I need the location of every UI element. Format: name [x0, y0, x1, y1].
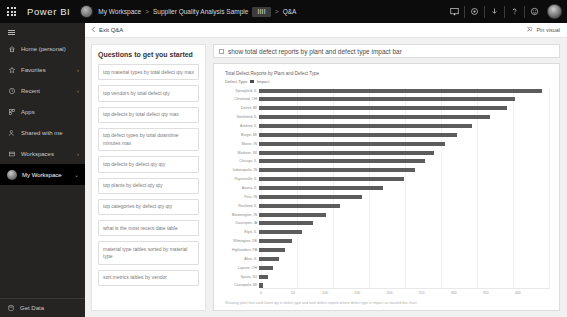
bar-value[interactable] [259, 230, 302, 234]
x-axis-tick: 250 [422, 291, 454, 298]
bar-row[interactable]: Moore, IN [225, 141, 550, 146]
bar-row[interactable]: Burgin, MI [225, 132, 550, 137]
chart-card: Total Defect Reports by Plant and Defect… [213, 63, 560, 311]
bar-value[interactable] [259, 106, 507, 110]
breadcrumb-workspace[interactable]: My Workspace [98, 8, 141, 15]
top-bar-actions [445, 0, 567, 23]
bar-row[interactable]: Wilmington, DE [225, 239, 550, 244]
exit-qa-button[interactable]: Exit Q&A [91, 26, 123, 34]
bar-track [259, 106, 550, 110]
breadcrumb-separator-2: > [275, 8, 279, 15]
bar-value[interactable] [259, 221, 313, 225]
bar-row[interactable]: Elgin, IL [225, 230, 550, 235]
hamburger-icon[interactable] [0, 23, 85, 38]
legend-title: Defect Type [225, 79, 247, 84]
bar-value[interactable] [259, 239, 292, 243]
bar-category-label: Sparta, NJ [225, 275, 259, 279]
sidebar-item-label: Favorites [21, 67, 46, 73]
bar-value[interactable] [259, 168, 415, 172]
sidebar-item-apps[interactable]: Apps [0, 101, 85, 122]
bar-row[interactable]: Cassopolis, MI [225, 283, 550, 288]
bar-row[interactable]: Cleveland, OH [225, 97, 550, 102]
bar-value[interactable] [259, 151, 434, 155]
x-axis-tick: 200 [389, 291, 421, 298]
bar-value[interactable] [259, 177, 404, 181]
bar-row[interactable]: Paynesville, IL [225, 177, 550, 182]
bar-value[interactable] [259, 266, 273, 270]
get-data-label: Get Data [20, 305, 44, 311]
chevron-right-icon: › [77, 151, 79, 157]
settings-gear-icon[interactable] [465, 0, 484, 23]
bar-value[interactable] [259, 133, 457, 137]
download-icon[interactable] [485, 0, 504, 23]
x-axis-tick: 400 [518, 291, 550, 298]
bar-row[interactable]: Peru, IN [225, 194, 550, 199]
bar-value[interactable] [259, 248, 285, 252]
bar-row[interactable]: Rockford, IL [225, 203, 550, 208]
suggested-question-item[interactable]: top material types by total defect qty m… [98, 64, 199, 80]
bar-value[interactable] [259, 89, 542, 93]
bar-track [259, 230, 550, 234]
user-avatar[interactable] [547, 4, 562, 19]
suggested-question-item[interactable]: top defects by total defect qty max [98, 107, 199, 123]
suggested-question-item[interactable]: top categories by defect qty qty [98, 199, 199, 215]
bar-row[interactable]: Smithfield, IL [225, 115, 550, 120]
sidebar-item-my-workspace[interactable]: My Workspace ⌄ [0, 164, 85, 185]
qa-query-input[interactable]: show total defect reports by plant and d… [213, 44, 560, 58]
sidebar-item-home[interactable]: Home (personal) [0, 38, 85, 59]
bar-track [259, 124, 550, 128]
brand-title[interactable]: Power BI [27, 6, 70, 17]
feedback-smiley-icon[interactable] [525, 0, 544, 23]
bar-value[interactable] [259, 97, 515, 101]
suggested-question-item[interactable]: top defects by defect qty qty [98, 156, 199, 172]
suggested-question-item[interactable]: sort metrics tables by vendor [98, 270, 199, 286]
bar-value[interactable] [259, 213, 326, 217]
bar-row[interactable]: Aurora, IL [225, 185, 550, 190]
bar-row[interactable]: Highlandton, PA [225, 247, 550, 252]
bar-row[interactable]: Laporte, OH [225, 265, 550, 270]
bar-row[interactable]: Sparta, NJ [225, 274, 550, 279]
bar-value[interactable] [259, 142, 445, 146]
help-question-icon[interactable] [505, 0, 524, 23]
bar-value[interactable] [259, 275, 268, 279]
bar-value[interactable] [259, 204, 340, 208]
pin-icon [526, 26, 533, 34]
bar-category-label: Bloomington, IN [225, 213, 259, 217]
get-data-button[interactable]: Get Data [0, 298, 85, 317]
waffle-grid-icon[interactable] [0, 0, 23, 23]
breadcrumb-chip[interactable]: IIII [252, 7, 270, 17]
breadcrumb-report[interactable]: Supplier Quality Analysis Sample [153, 8, 248, 15]
checkbox-icon [219, 49, 224, 54]
bar-row[interactable]: Madison, WI [225, 150, 550, 155]
bar-track [259, 275, 550, 279]
bar-value[interactable] [259, 195, 362, 199]
bar-row[interactable]: Indianapolis, IN [225, 168, 550, 173]
bar-row[interactable]: Bloomington, IN [225, 212, 550, 217]
sidebar-item-shared-with-me[interactable]: Shared with me [0, 122, 85, 143]
bar-row[interactable]: Detroit, MI [225, 106, 550, 111]
sidebar-item-favorites[interactable]: Favorites › [0, 59, 85, 80]
suggested-question-item[interactable]: what is the most recent date table [98, 220, 199, 236]
suggested-question-item[interactable]: top vendors by total defect qty [98, 85, 199, 101]
bar-track [259, 283, 550, 287]
bar-row[interactable]: Ashford, IL [225, 123, 550, 128]
suggested-question-item[interactable]: material type tables sorted by material … [98, 241, 199, 265]
pin-visual-button[interactable]: Pin visual [526, 26, 560, 34]
bar-row[interactable]: Chicago, IL [225, 159, 550, 164]
present-icon[interactable] [445, 0, 464, 23]
bar-value[interactable] [259, 115, 490, 119]
sidebar-item-recent[interactable]: Recent › [0, 80, 85, 101]
bar-row[interactable]: Davenport, IA [225, 221, 550, 226]
bar-value[interactable] [259, 257, 279, 261]
bar-value[interactable] [259, 124, 472, 128]
breadcrumb-page[interactable]: Q&A [283, 8, 297, 15]
suggested-question-item[interactable]: top plants by defect qty qty [98, 178, 199, 194]
bar-row[interactable]: Springfield, IL [225, 88, 550, 93]
suggested-question-item[interactable]: top defect types by total downtime minut… [98, 128, 199, 152]
bar-value[interactable] [259, 186, 383, 190]
bar-row[interactable]: Alton, IL [225, 256, 550, 261]
sidebar-item-workspaces[interactable]: Workspaces › [0, 143, 85, 164]
bar-value[interactable] [259, 159, 425, 163]
bar-value[interactable] [259, 283, 263, 287]
chart-title: Total Defect Reports by Plant and Defect… [225, 71, 550, 76]
